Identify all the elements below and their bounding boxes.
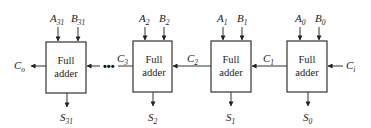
input-a-label: A2 [138, 12, 150, 27]
input-b-label: B31 [71, 12, 85, 27]
sum-label: S1 [226, 111, 235, 126]
carry-c2-label: C2 [187, 52, 198, 67]
sum-label: S2 [148, 111, 158, 126]
carry-out-label: Co [14, 59, 25, 74]
input-b-label: B1 [237, 12, 247, 27]
ellipsis-dots: ••• [103, 60, 115, 72]
ripple-carry-adder-diagram: Full adder A31 B31 S31 Co ••• C3 Full ad… [0, 0, 371, 128]
full-adder-stage-31: Full adder A31 B31 S31 [46, 12, 86, 126]
block-label-line1: Full [146, 54, 163, 65]
block-label-line1: Full [58, 55, 75, 66]
input-a-label: A0 [294, 12, 306, 27]
block-label-line1: Full [299, 54, 316, 65]
input-b-label: B0 [315, 12, 326, 27]
input-a-label: A31 [49, 12, 64, 27]
carry-c1-label: C1 [263, 52, 274, 67]
block-label-line2: adder [219, 67, 243, 78]
sum-label: S31 [60, 111, 73, 126]
block-label-line2: adder [54, 68, 78, 79]
sum-label: S0 [303, 111, 313, 126]
full-adder-stage-2: Full adder A2 B2 S2 [133, 12, 172, 126]
full-adder-stage-0: Full adder A0 B0 S0 [287, 12, 327, 126]
block-label-line1: Full [223, 54, 240, 65]
input-a-label: A1 [216, 12, 227, 27]
carry-c3-label: C3 [117, 52, 128, 67]
full-adder-stage-1: Full adder A1 B1 S1 [211, 12, 251, 126]
carry-in-label: Ci [346, 59, 355, 74]
input-b-label: B2 [159, 12, 170, 27]
block-label-line2: adder [295, 67, 319, 78]
block-label-line2: adder [142, 67, 166, 78]
